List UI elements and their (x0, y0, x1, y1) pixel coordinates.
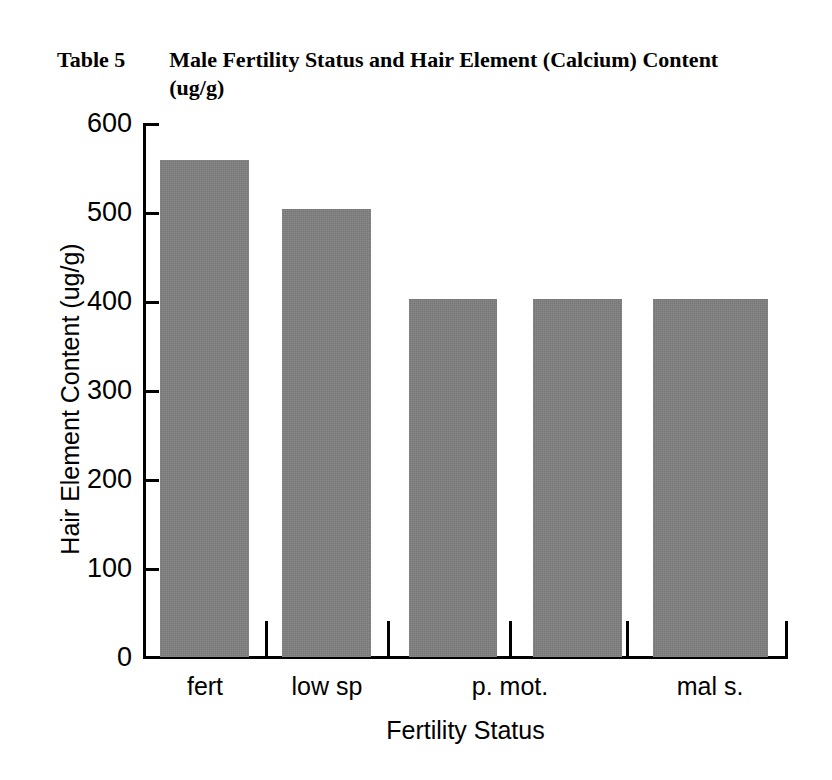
x-tick-1 (265, 621, 268, 657)
bar-fert (160, 160, 249, 657)
x-label-mal-s: mal s. (655, 672, 765, 700)
y-tick-600 (143, 123, 159, 126)
bar-mal-s (653, 299, 768, 657)
y-tick-400 (143, 301, 159, 304)
y-tick-label-600: 600 (62, 110, 132, 137)
x-tick-3 (509, 621, 512, 657)
x-tick-2 (387, 621, 390, 657)
y-axis-title: Hair Element Content (ug/g) (56, 159, 84, 639)
x-label-p-mot: p. mot. (455, 672, 565, 700)
y-tick-500 (143, 212, 159, 215)
y-tick-100 (143, 568, 159, 571)
y-tick-label-0: 0 (62, 644, 132, 671)
x-label-fert: fert (160, 672, 250, 700)
y-tick-200 (143, 479, 159, 482)
bar-p-mot (409, 299, 497, 657)
bar-p-mot-extension (533, 299, 622, 657)
x-axis-title: Fertility Status (143, 716, 788, 744)
x-tick-4 (626, 621, 629, 657)
bar-low-sp (282, 209, 371, 657)
bar-chart: 600 500 400 300 200 100 0 fert low sp p.… (0, 0, 832, 780)
x-label-low-sp: low sp (277, 672, 377, 700)
y-tick-300 (143, 390, 159, 393)
x-tick-5 (785, 621, 788, 657)
